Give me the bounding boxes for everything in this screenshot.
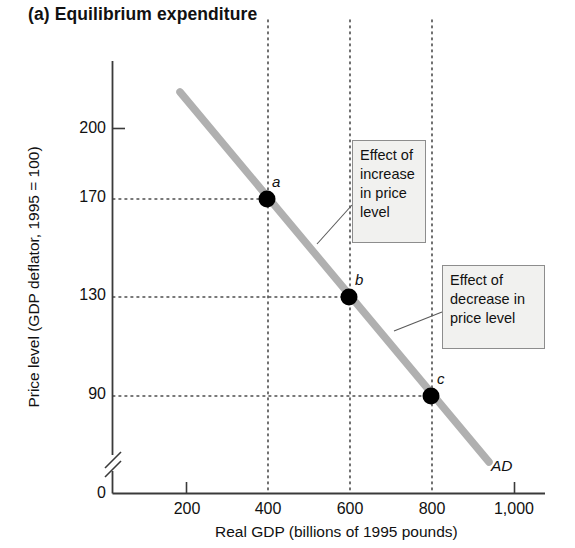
annotation-line: decrease in — [450, 290, 537, 309]
annotation-line: Effect of — [360, 146, 418, 165]
data-point-b — [341, 289, 358, 306]
x-tick-label-400: 400 — [233, 500, 303, 518]
y-tick-label-200: 200 — [52, 119, 106, 137]
leader-line-decrease — [394, 312, 442, 331]
y-tick-label-130: 130 — [52, 286, 106, 304]
data-point-label-a: a — [272, 173, 280, 190]
annotation-line: level — [360, 203, 418, 222]
data-point-label-b: b — [355, 271, 363, 288]
data-point-label-c: c — [437, 370, 445, 387]
y-tick-label-0: 0 — [52, 484, 106, 502]
annotation-effect-of-decrease: Effect of decrease in price level — [442, 265, 545, 349]
x-tick-label-600: 600 — [315, 500, 385, 518]
annotation-line: price level — [450, 309, 537, 328]
y-tick-label-90: 90 — [52, 385, 106, 403]
y-tick-label-170: 170 — [52, 188, 106, 206]
data-point-c — [423, 388, 440, 405]
annotation-line: increase — [360, 165, 418, 184]
y-axis-title: Price level (GDP deflator, 1995 = 100) — [25, 97, 43, 457]
ad-curve-label: AD — [491, 457, 513, 475]
x-tick-label-1000: 1,000 — [479, 500, 549, 518]
data-point-a — [259, 191, 276, 208]
leader-line-increase — [317, 205, 352, 244]
chart-figure: (a) Equilibrium expenditure a b c — [0, 0, 575, 548]
annotation-line: in price — [360, 184, 418, 203]
x-tick-label-200: 200 — [152, 500, 222, 518]
x-tick-label-800: 800 — [397, 500, 467, 518]
annotation-line: Effect of — [450, 271, 537, 290]
annotation-effect-of-increase: Effect of increase in price level — [352, 140, 426, 243]
x-axis-title: Real GDP (billions of 1995 pounds) — [215, 523, 458, 541]
